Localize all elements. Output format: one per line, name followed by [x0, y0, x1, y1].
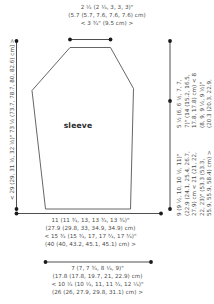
bottom-lower-measurement-label: 7 (7, 7 ³⁄₄, 8 ¹⁄₄, 9)" (17.8 (17.8, 19.…: [0, 264, 195, 296]
top-measurement-line-2: (5.7 (5.7, 7.6, 7.6, 7.6) cm): [0, 11, 214, 19]
sleeve-piece-label: sleeve: [0, 121, 156, 130]
bottom-upper-dimension-dot-right: [159, 212, 163, 216]
top-dimension-dot-right: [109, 38, 113, 42]
right-lower-dimension-dot-bottom: [168, 207, 172, 211]
bottom-upper-dimension-dot-left: [15, 212, 19, 216]
top-measurement-label: 2 ¹⁄₄ (2 ¹⁄₄, 3, 3, 3)" (5.7 (5.7, 7.6, …: [0, 3, 214, 27]
bottom-upper-measurement-line-1: 11 (11 ³⁄₄, 13, 13 ³⁄₄, 13 ³⁄₄)": [0, 216, 181, 224]
right-lower-measurement-line-1: 9 (9 ¹⁄₂, 10, 10 ¹⁄₂, 11)": [176, 150, 184, 216]
left-measurement-line-1: < 29 (29, 31 ¹⁄₂, 32 ¹⁄₂)" 73 ¹⁄₂ (73.7,…: [9, 39, 17, 201]
right-lower-measurement-line-2: (22.9 (24.1, 25.4, 26.7,: [184, 150, 192, 216]
bottom-lower-measurement-line-3: < 10 ¹⁄₄ (10 ¹⁄₄, 11, 11 ³⁄₄, 12 ¹⁄₄)": [0, 280, 195, 288]
right-lower-measurement-line-3: 27.9) cm < 21 (21, 22,: [191, 150, 199, 216]
bottom-lower-measurement-line-2: (17.8 (17.8, 19.7, 21, 22.9) cm): [0, 272, 195, 280]
right-lower-measurement-label: 9 (9 ¹⁄₂, 10, 10 ¹⁄₂, 11)" (22.9 (24.1, …: [176, 150, 214, 216]
bottom-lower-measurement-line-4: (26 (26, 27.9, 29.8, 31.1) cm) >: [0, 288, 195, 296]
right-upper-measurement-line-4: (8, 9, 9 ¹⁄₂, 9 ¹⁄₂)": [199, 73, 207, 128]
right-lower-measurement-line-4: 22, 23)" (53.3 (53.3,: [199, 150, 207, 216]
right-lower-measurement-line-5: 55.9, 55.9, 58.4) cm) >: [206, 150, 214, 216]
top-measurement-line-1: 2 ¹⁄₄ (2 ¹⁄₄, 3, 3, 3)": [0, 3, 214, 11]
top-measurement-line-3: < 3 ³⁄₄" (9.5 cm) >: [0, 19, 214, 27]
left-dimension-dot-bottom: [15, 207, 19, 211]
bottom-upper-measurement-line-3: < 15 ³⁄₄ (15 ³⁄₄, 17, 17 ³⁄₄, 17 ³⁄₄)": [0, 232, 181, 240]
left-measurement-label: < 29 (29, 31 ¹⁄₂, 32 ¹⁄₂)" 73 ¹⁄₂ (73.7,…: [9, 39, 17, 201]
bottom-lower-measurement-line-1: 7 (7, 7 ³⁄₄, 8 ¹⁄₄, 9)": [0, 264, 195, 272]
bottom-upper-measurement-line-4: (40 (40, 43.2, 45.1, 45.1) cm) >: [0, 240, 181, 248]
right-upper-measurement-line-2: 7)" (14 (15.2, 16.5,: [184, 73, 192, 128]
bottom-upper-measurement-line-2: (27.9 (29.8, 33, 34.9, 34.9) cm): [0, 224, 181, 232]
bottom-upper-measurement-label: 11 (11 ³⁄₄, 13, 13 ³⁄₄, 13 ³⁄₄)" (27.9 (…: [0, 216, 181, 248]
right-upper-measurement-line-1: 5 ¹⁄₂ (6, 6 ¹⁄₂, 7, 7,: [176, 73, 184, 128]
right-upper-measurement-line-5: (20.3 (20.3, 22.9,: [206, 73, 214, 128]
right-upper-measurement-label: 5 ¹⁄₂ (6, 6 ¹⁄₂, 7, 7, 7)" (14 (15.2, 16…: [176, 73, 214, 128]
right-upper-measurement-line-3: 17.8, 17.8) cm) < 8: [191, 73, 199, 128]
right-upper-dimension-dot-top: [168, 39, 172, 43]
top-dimension-dot-left: [68, 38, 72, 42]
